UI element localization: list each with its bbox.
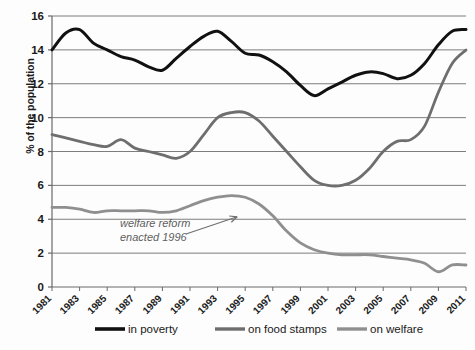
y-axis-tick-label: 0 — [38, 281, 44, 293]
y-axis-tick-label: 10 — [31, 112, 44, 124]
x-axis-ticks: 1981198319851987198919911993199519971999… — [30, 287, 468, 316]
x-axis-tick-label: 1983 — [58, 292, 82, 316]
chart-legend: in povertyon food stampson welfare — [95, 323, 423, 335]
x-axis-tick-label: 2011 — [444, 292, 467, 315]
x-axis-tick-label: 1987 — [113, 292, 137, 316]
chart-annotation: welfare reformenacted 1996 — [120, 216, 237, 243]
data-series — [52, 29, 466, 272]
y-axis-tick-label: 2 — [38, 247, 44, 259]
x-axis-tick-label: 1989 — [140, 292, 164, 316]
x-axis-tick-label: 2009 — [416, 292, 440, 316]
y-axis-tick-label: 4 — [38, 213, 45, 225]
y-axis-tick-label: 6 — [38, 179, 44, 191]
legend-label-in-poverty: in poverty — [128, 323, 178, 335]
x-axis-tick-label: 1993 — [196, 292, 220, 316]
x-axis-tick-label: 2001 — [306, 292, 330, 316]
x-axis-tick-label: 1997 — [251, 292, 275, 316]
x-axis-tick-label: 1981 — [30, 292, 54, 316]
x-axis-tick-label: 1995 — [223, 292, 247, 316]
annotation-line-2: enacted 1996 — [120, 231, 188, 243]
series-line-in-poverty — [52, 29, 466, 96]
legend-label-on-food-stamps: on food stamps — [248, 323, 327, 335]
y-axis-tick-label: 8 — [38, 146, 45, 158]
chart-canvas: 0246810121416 19811983198519871989199119… — [0, 0, 475, 350]
series-line-on-welfare — [52, 196, 466, 272]
x-axis-tick-label: 2003 — [334, 292, 358, 316]
annotation-line-1: welfare reform — [120, 217, 190, 229]
gridlines — [48, 16, 466, 287]
x-axis-tick-label: 1991 — [168, 292, 192, 316]
poverty-welfare-line-chart: % of the population 0246810121416 198119… — [0, 0, 475, 350]
y-axis-tick-label: 16 — [31, 10, 44, 22]
y-axis-tick-label: 14 — [31, 44, 44, 56]
y-axis-tick-label: 12 — [31, 78, 44, 90]
legend-label-on-welfare: on welfare — [370, 323, 423, 335]
x-axis-tick-label: 1999 — [278, 292, 302, 316]
x-axis-tick-label: 2005 — [361, 292, 385, 316]
x-axis-tick-label: 2007 — [389, 292, 413, 316]
y-axis-ticks: 0246810121416 — [31, 10, 44, 293]
x-axis-tick-label: 1985 — [85, 292, 109, 316]
